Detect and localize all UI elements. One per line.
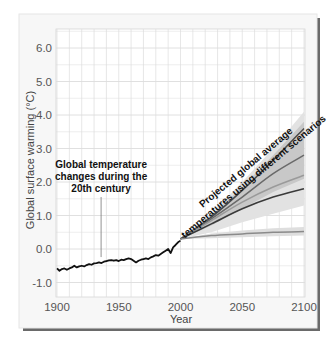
y-tick-label: 4.0 <box>36 109 52 121</box>
y-tick-label: 3.0 <box>36 143 52 155</box>
y-tick-label: 0.0 <box>36 243 52 255</box>
x-tick-label: 2100 <box>291 301 317 313</box>
x-tick-label: 2000 <box>168 301 194 313</box>
y-tick-label: -1.0 <box>32 277 52 289</box>
y-axis-title: Global surface warming (°C) <box>24 91 36 229</box>
annotation-line: changes during the <box>55 171 148 182</box>
y-tick-label: 6.0 <box>36 42 52 54</box>
x-tick-label: 1900 <box>44 301 70 313</box>
x-axis-title: Year <box>170 313 193 325</box>
x-tick-label: 2050 <box>229 301 255 313</box>
y-tick-label: 2.0 <box>36 176 52 188</box>
annotation-line: Global temperature <box>55 159 147 170</box>
x-tick-label: 1950 <box>106 301 132 313</box>
temperature-chart: -1.00.01.02.03.04.05.06.0 19001950200020… <box>0 0 336 343</box>
annotation-line: 20th century <box>71 183 131 194</box>
chart-container: -1.00.01.02.03.04.05.06.0 19001950200020… <box>0 0 336 343</box>
y-tick-label: 1.0 <box>36 210 52 222</box>
y-tick-label: 5.0 <box>36 76 52 88</box>
